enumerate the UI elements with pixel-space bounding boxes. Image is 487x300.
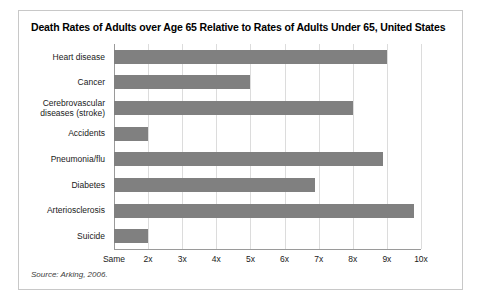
x-tick-label: 6x: [280, 254, 289, 264]
bar-row: [114, 44, 421, 70]
category-label: Accidents: [17, 128, 105, 138]
category-label: Heart disease: [17, 52, 105, 62]
bar: [114, 229, 148, 243]
bar-row: [114, 121, 421, 147]
bar-row: [114, 223, 421, 249]
category-label: Arteriosclerosis: [17, 205, 105, 215]
bar: [114, 204, 414, 218]
x-tick-label: 2x: [144, 254, 153, 264]
bar-row: [114, 147, 421, 173]
bar: [114, 127, 148, 141]
x-tick-label: 7x: [314, 254, 323, 264]
bar: [114, 152, 383, 166]
bar: [114, 75, 250, 89]
category-label: Diabetes: [17, 180, 105, 190]
category-label-line: Pneumonia/flu: [17, 154, 105, 164]
bar-row: [114, 70, 421, 96]
x-axis-line: [114, 249, 421, 250]
x-tick-label: 8x: [348, 254, 357, 264]
x-tick-label: 10x: [414, 254, 428, 264]
bar-row: [114, 172, 421, 198]
chart-title: Death Rates of Adults over Age 65 Relati…: [31, 21, 456, 33]
gridline: [421, 44, 422, 249]
category-label-line: Arteriosclerosis: [17, 205, 105, 215]
x-tick-label: 9x: [382, 254, 391, 264]
category-label-line: Cancer: [17, 77, 105, 87]
chart-figure: Death Rates of Adults over Age 65 Relati…: [18, 10, 463, 290]
category-label-line: Cerebrovascular: [17, 98, 105, 109]
x-tick-label: Same: [103, 254, 125, 264]
category-label: Cancer: [17, 77, 105, 87]
bar-row: [114, 95, 421, 121]
category-label-line: diseases (stroke): [17, 108, 105, 119]
x-tick-label: 3x: [178, 254, 187, 264]
category-label: Pneumonia/flu: [17, 154, 105, 164]
category-label-line: Diabetes: [17, 180, 105, 190]
bar: [114, 50, 387, 64]
plot-area: [114, 44, 421, 249]
category-label-line: Heart disease: [17, 52, 105, 62]
bar: [114, 101, 353, 115]
category-label: Suicide: [17, 231, 105, 241]
x-tick-label: 5x: [246, 254, 255, 264]
bar: [114, 178, 315, 192]
bar-row: [114, 198, 421, 224]
source-note: Source: Arking, 2006.: [31, 270, 108, 279]
category-label: Cerebrovasculardiseases (stroke): [17, 98, 105, 119]
category-label-line: Suicide: [17, 231, 105, 241]
category-label-line: Accidents: [17, 128, 105, 138]
x-tick-label: 4x: [212, 254, 221, 264]
